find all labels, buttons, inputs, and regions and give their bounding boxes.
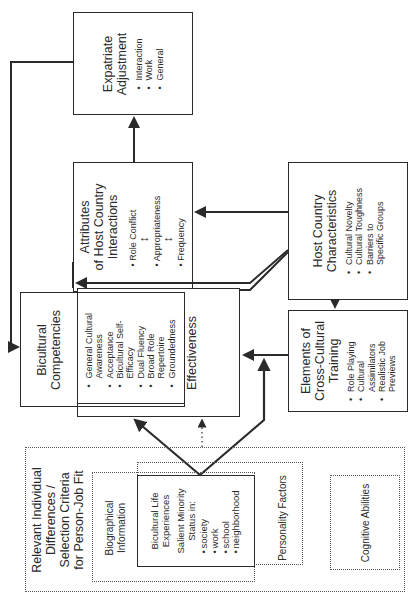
connector-lines-overlay xyxy=(0,0,419,596)
